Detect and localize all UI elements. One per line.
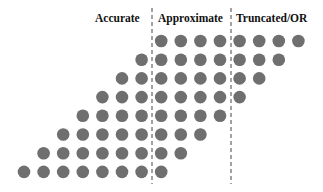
- partial-product-dot-diagram: Accurate Approximate Truncated/OR: [0, 0, 323, 192]
- accurate-dot: [77, 110, 90, 123]
- approximate-dot: [155, 91, 168, 104]
- approximate-dot: [214, 91, 227, 104]
- accurate-dot: [135, 72, 148, 85]
- truncated-dot: [233, 35, 246, 48]
- accurate-dot: [18, 166, 31, 179]
- dot-matrix: [18, 35, 305, 179]
- accurate-dot: [96, 166, 109, 179]
- accurate-dot: [96, 110, 109, 123]
- approximate-dot: [214, 110, 227, 123]
- truncated-dot: [253, 35, 266, 48]
- approximate-dot: [155, 53, 168, 66]
- accurate-dot: [116, 147, 129, 160]
- accurate-dot: [37, 147, 50, 160]
- accurate-dot: [135, 91, 148, 104]
- accurate-dot: [96, 128, 109, 141]
- approximate-dot: [155, 166, 168, 179]
- truncated-dot: [253, 72, 266, 85]
- approximate-dot: [175, 53, 188, 66]
- label-approximate: Approximate: [158, 12, 223, 25]
- approximate-dot: [175, 72, 188, 85]
- accurate-dot: [135, 53, 148, 66]
- truncated-dot: [233, 72, 246, 85]
- approximate-dot: [175, 91, 188, 104]
- accurate-dot: [96, 147, 109, 160]
- approximate-dot: [155, 72, 168, 85]
- accurate-dot: [116, 91, 129, 104]
- approximate-dot: [194, 53, 207, 66]
- accurate-dot: [57, 128, 70, 141]
- accurate-dot: [77, 166, 90, 179]
- approximate-dot: [175, 147, 188, 160]
- accurate-dot: [135, 166, 148, 179]
- truncated-dot: [292, 35, 305, 48]
- approximate-dot: [214, 35, 227, 48]
- approximate-dot: [155, 35, 168, 48]
- accurate-dot: [135, 110, 148, 123]
- accurate-dot: [135, 147, 148, 160]
- truncated-dot: [273, 35, 286, 48]
- approximate-dot: [214, 72, 227, 85]
- accurate-dot: [37, 166, 50, 179]
- accurate-dot: [116, 72, 129, 85]
- approximate-dot: [155, 128, 168, 141]
- truncated-dot: [233, 91, 246, 104]
- approximate-dot: [194, 128, 207, 141]
- accurate-dot: [77, 147, 90, 160]
- approximate-dot: [155, 110, 168, 123]
- approximate-dot: [194, 110, 207, 123]
- approximate-dot: [175, 110, 188, 123]
- truncated-dot: [253, 53, 266, 66]
- accurate-dot: [116, 166, 129, 179]
- accurate-dot: [57, 147, 70, 160]
- accurate-dot: [116, 110, 129, 123]
- accurate-dot: [96, 91, 109, 104]
- approximate-dot: [214, 53, 227, 66]
- approximate-dot: [194, 35, 207, 48]
- approximate-dot: [155, 147, 168, 160]
- approximate-dot: [175, 35, 188, 48]
- accurate-dot: [135, 128, 148, 141]
- approximate-dot: [194, 91, 207, 104]
- accurate-dot: [57, 166, 70, 179]
- approximate-dot: [175, 128, 188, 141]
- truncated-dot: [273, 53, 286, 66]
- accurate-dot: [77, 128, 90, 141]
- label-accurate: Accurate: [95, 12, 140, 24]
- accurate-dot: [116, 128, 129, 141]
- truncated-dot: [233, 53, 246, 66]
- approximate-dot: [194, 72, 207, 85]
- label-truncated: Truncated/OR: [236, 12, 308, 24]
